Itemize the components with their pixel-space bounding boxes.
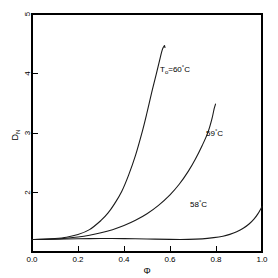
curve-group <box>32 46 262 240</box>
chart-figure: 5 4 3 2 0.0 0.2 0.4 0.6 0.8 1.0 Φ DN <box>0 0 278 278</box>
annotation-58c: 58°C <box>190 199 207 209</box>
x-tick-label-5: 1.0 <box>256 255 268 264</box>
y-axis-ticks <box>32 14 38 193</box>
annotation-58c-unit: C <box>201 200 207 209</box>
annotation-59c-unit: C <box>217 129 223 138</box>
y-tick-label-3: 3 <box>23 130 32 135</box>
y-axis-title-sub: N <box>15 130 21 134</box>
annotation-60c: To=60°C <box>160 64 190 75</box>
x-tick-label-4: 0.8 <box>210 255 222 264</box>
x-tick-label-3: 0.6 <box>164 255 176 264</box>
y-tick-label-4: 4 <box>23 71 32 76</box>
y-tick-label-5: 5 <box>23 11 32 16</box>
svg-text:DN: DN <box>10 130 20 141</box>
annotation-59c: 59°C <box>206 128 223 138</box>
x-axis-title: Φ <box>143 266 150 276</box>
chart-plot-area: 5 4 3 2 0.0 0.2 0.4 0.6 0.8 1.0 Φ DN <box>0 0 278 278</box>
plot-frame <box>32 14 262 252</box>
annotation-60c-rest: =60 <box>168 65 182 74</box>
x-tick-labels: 0.0 0.2 0.4 0.6 0.8 1.0 <box>26 255 268 264</box>
x-tick-label-2: 0.4 <box>118 255 130 264</box>
x-tick-label-0: 0.0 <box>26 255 38 264</box>
x-axis-ticks <box>32 246 262 252</box>
annotation-60c-unit: C <box>184 65 190 74</box>
curve-59c <box>32 104 216 239</box>
y-axis-title: DN <box>10 130 20 141</box>
y-tick-label-2: 2 <box>23 190 32 195</box>
y-tick-labels: 5 4 3 2 <box>23 11 32 195</box>
curve-58c <box>32 207 262 240</box>
curve-60c <box>32 46 165 240</box>
x-tick-label-1: 0.2 <box>72 255 84 264</box>
